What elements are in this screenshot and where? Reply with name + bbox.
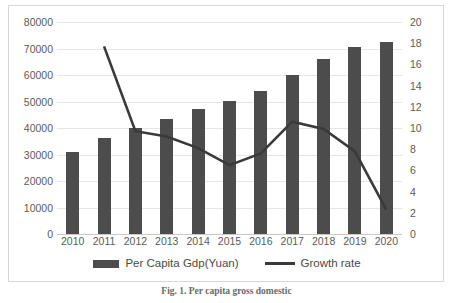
- x-axis: 2010201120122013201420152016201720182019…: [57, 236, 402, 252]
- y-axis-left-tick: 60000: [24, 70, 53, 81]
- x-axis-tick: 2018: [312, 236, 335, 247]
- y-axis-right-tick: 0: [410, 229, 416, 240]
- legend-label-growth-rate: Growth rate: [301, 258, 361, 270]
- y-axis-left-tick: 70000: [24, 43, 53, 54]
- legend-line-swatch-icon: [265, 262, 295, 265]
- chart-legend: Per Capita Gdp(Yuan) Growth rate: [9, 258, 445, 270]
- y-axis-right-tick: 4: [410, 186, 416, 197]
- chart-frame: 0100002000030000400005000060000700008000…: [8, 5, 444, 282]
- y-axis-left-tick: 20000: [24, 176, 53, 187]
- y-axis-left-tick: 10000: [24, 202, 53, 213]
- y-axis-right-tick: 20: [410, 17, 422, 28]
- x-axis-tick: 2015: [218, 236, 241, 247]
- x-axis-tick: 2019: [343, 236, 366, 247]
- x-axis-tick: 2011: [93, 236, 116, 247]
- y-axis-right-tick: 12: [410, 102, 422, 113]
- y-axis-right-tick: 8: [410, 144, 416, 155]
- y-axis-left: 0100002000030000400005000060000700008000…: [9, 22, 53, 234]
- y-axis-left-tick: 50000: [24, 96, 53, 107]
- line-series: [57, 22, 402, 234]
- figure-container: 0100002000030000400005000060000700008000…: [0, 0, 453, 303]
- y-axis-left-tick: 80000: [24, 17, 53, 28]
- x-axis-tick: 2017: [281, 236, 304, 247]
- y-axis-right-tick: 18: [410, 38, 422, 49]
- y-axis-right-tick: 10: [410, 123, 422, 134]
- y-axis-right-tick: 16: [410, 59, 422, 70]
- legend-label-per-capita-gdp: Per Capita Gdp(Yuan): [125, 258, 238, 270]
- x-axis-tick: 2010: [61, 236, 84, 247]
- y-axis-right-tick: 2: [410, 208, 416, 219]
- x-axis-tick: 2012: [124, 236, 147, 247]
- plot-area: [57, 22, 402, 234]
- y-axis-left-tick: 40000: [24, 123, 53, 134]
- y-axis-right-tick: 14: [410, 80, 422, 91]
- y-axis-left-tick: 30000: [24, 149, 53, 160]
- legend-item-per-capita-gdp[interactable]: Per Capita Gdp(Yuan): [93, 258, 238, 270]
- y-axis-left-tick: 0: [47, 229, 53, 240]
- x-axis-tick: 2014: [186, 236, 209, 247]
- y-axis-right-tick: 6: [410, 165, 416, 176]
- x-axis-tick: 2013: [155, 236, 178, 247]
- legend-item-growth-rate[interactable]: Growth rate: [265, 258, 361, 270]
- legend-bar-swatch-icon: [93, 260, 119, 268]
- x-axis-tick: 2020: [375, 236, 398, 247]
- x-axis-tick: 2016: [249, 236, 272, 247]
- y-axis-right: 02468101214161820: [406, 22, 440, 234]
- figure-caption: Fig. 1. Per capita gross domestic: [0, 286, 453, 296]
